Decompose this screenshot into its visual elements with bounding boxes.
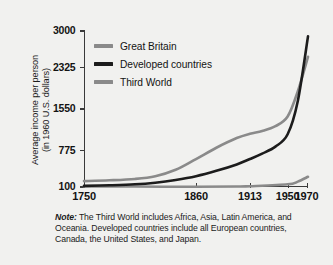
legend-item[interactable]: Developed countries	[94, 58, 212, 70]
chart-figure: Average income per person (in 1960 U.S. …	[0, 0, 333, 265]
legend-label: Developed countries	[120, 59, 212, 70]
note-body: The Third World includes Africa, Asia, L…	[55, 212, 292, 244]
legend-item[interactable]: Third World	[94, 76, 212, 88]
chart-note: Note: The Third World includes Africa, A…	[55, 212, 305, 245]
x-axis-tick-label: 1860	[184, 190, 208, 202]
y-axis-tick-label: 1550	[53, 102, 76, 114]
note-label: Note:	[55, 212, 77, 222]
legend-item[interactable]: Great Britain	[94, 40, 212, 52]
x-axis-tick-label: 1970	[295, 190, 319, 202]
x-axis-tick-label: 1750	[72, 190, 96, 202]
legend-swatch-icon	[94, 44, 113, 47]
y-axis-tick-label: 3000	[53, 24, 76, 36]
legend-label: Third World	[120, 77, 172, 88]
legend-swatch-icon	[94, 80, 113, 83]
legend-label: Great Britain	[120, 41, 177, 52]
y-axis-title-text: Average income per person (in 1960 U.S. …	[30, 55, 53, 165]
legend-swatch-icon	[94, 62, 113, 66]
y-axis-title-line2: (in 1960 U.S. dollars)	[41, 55, 52, 165]
x-axis-tick-label: 1913	[238, 190, 262, 202]
y-axis-tick-label: 775	[59, 144, 76, 156]
y-axis-title-line1: Average income per person	[30, 55, 41, 165]
y-axis-tick-label: 2325	[53, 61, 76, 73]
chart-legend: Great BritainDeveloped countriesThird Wo…	[94, 40, 212, 88]
